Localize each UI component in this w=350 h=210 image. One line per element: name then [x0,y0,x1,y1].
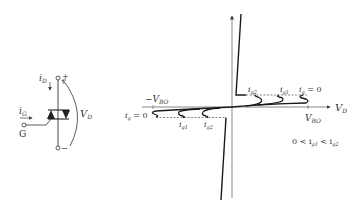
triac-circuit: iD iG G VD + − [19,72,92,153]
terminal-bottom [56,146,60,150]
pos-breakover-label: VBO [305,113,321,124]
neg-breakover-label: −VBO [145,94,169,105]
reverse-curve-ig2 [202,108,220,118]
condition-text: 0 < ig1 < ig2 [292,137,339,148]
rev-label-ig2: ig2 [204,120,213,131]
device-current-label: iD [39,73,47,84]
fwd-label-ig0: ig = 0 [299,85,322,96]
reverse-curve-ig1 [179,109,201,118]
triac-triangle-up [47,110,55,119]
terminal-top [56,76,60,80]
vi-characteristic: VD VBO −VBO ig2 ig1 ig = 0 ig = 0 ig1 ig… [125,14,347,200]
reverse-on-state-line [221,118,226,201]
gate-terminal [22,123,26,127]
gate-terminal-label: G [19,129,26,139]
gate-current-label: iG [19,106,27,117]
fwd-label-ig2: ig2 [248,85,257,96]
plus-sign: + [62,72,69,81]
x-axis-label: VD [335,102,347,114]
forward-curve-ig0 [232,95,308,107]
reverse-curve-ig0 [152,107,232,117]
voltage-label: VD [80,108,92,120]
fwd-label-ig1: ig1 [280,85,289,96]
minus-sign: − [61,144,68,153]
rev-label-ig1: ig1 [179,120,188,131]
triac-triangle-down [62,110,70,119]
triac-diagram: iD iG G VD + − VD VBO −VBO ig2 ig1 [0,0,350,210]
forward-on-state-line [236,14,246,95]
gate-wire [25,119,51,125]
rev-label-ig0: ig = 0 [125,111,148,122]
